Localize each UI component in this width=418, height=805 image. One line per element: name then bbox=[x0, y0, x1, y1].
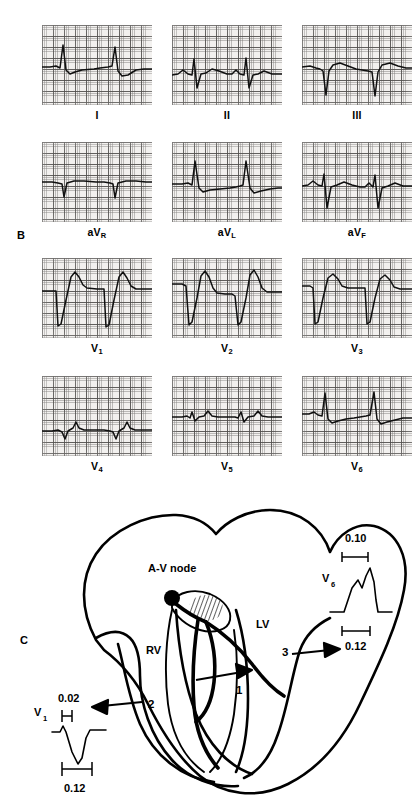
ecg-cell-lead-avf: aVF bbox=[302, 142, 412, 242]
ecg-cell-lead-avl: aVL bbox=[172, 142, 282, 242]
lead-label-v6: V6 bbox=[302, 460, 412, 474]
lead-label-text: I bbox=[95, 109, 98, 121]
left-ventricle-wall bbox=[244, 618, 330, 778]
lead-label-text: aV bbox=[218, 226, 231, 238]
ecg-grid-lead-v2 bbox=[172, 258, 282, 338]
lead-label-v4: V4 bbox=[42, 460, 152, 474]
v6-bottom-caliper bbox=[342, 626, 370, 636]
v1-bottom-interval-label: 0.12 bbox=[64, 782, 85, 794]
activation-arrow-3-label: 3 bbox=[282, 646, 288, 658]
ecg-grid-lead-v5 bbox=[172, 376, 282, 456]
lead-label-subscript: 6 bbox=[358, 465, 362, 474]
v6-top-interval-label: 0.10 bbox=[345, 532, 366, 544]
activation-arrow-2-label: 2 bbox=[148, 698, 154, 710]
lead-label-avf: aVF bbox=[302, 226, 412, 240]
av-node-label: A-V node bbox=[148, 562, 196, 574]
lead-label-subscript: 4 bbox=[98, 465, 102, 474]
lead-label-avr: aVR bbox=[42, 226, 152, 240]
left-bundle-branch-posterior bbox=[196, 622, 215, 722]
lead-label-subscript: F bbox=[361, 231, 366, 240]
v6-waveform bbox=[330, 568, 392, 612]
lead-label-v5: V5 bbox=[172, 460, 282, 474]
ecg-cell-lead-v4: V4 bbox=[42, 376, 152, 476]
ecg-cell-lead-avr: aVR bbox=[42, 142, 152, 242]
right-ventricle-label: RV bbox=[146, 644, 162, 656]
v1-bottom-caliper bbox=[62, 762, 92, 776]
ecg-grid-lead-avl bbox=[172, 142, 282, 222]
activation-arrow-1 bbox=[196, 664, 252, 680]
ecg-grid-lead-iii bbox=[302, 25, 412, 105]
ecg-cell-lead-v2: V2 bbox=[172, 258, 282, 358]
lead-label-subscript: R bbox=[101, 231, 107, 240]
lead-label-text: II bbox=[224, 109, 230, 121]
lead-label-subscript: 2 bbox=[228, 347, 232, 356]
lead-label-ii: II bbox=[172, 109, 282, 121]
lead-label-v1: V1 bbox=[42, 342, 152, 356]
lead-label-v3: V3 bbox=[302, 342, 412, 356]
ecg-grid-lead-v1 bbox=[42, 258, 152, 338]
v1-top-caliper bbox=[62, 710, 72, 722]
ecg-cell-lead-i: I bbox=[42, 25, 152, 125]
v6-lead-label: V bbox=[322, 572, 330, 584]
v6-inset: 0.10 V 6 0.12 bbox=[322, 532, 392, 652]
ecg-cell-lead-v1: V1 bbox=[42, 258, 152, 358]
ecg-grid-lead-i bbox=[42, 25, 152, 105]
lead-label-subscript: 1 bbox=[98, 347, 102, 356]
lead-label-text: aV bbox=[87, 226, 100, 238]
lead-label-subscript: L bbox=[231, 231, 236, 240]
v1-lead-subscript: 1 bbox=[43, 714, 47, 723]
ecg-cell-lead-iii: III bbox=[302, 25, 412, 125]
ecg-cell-lead-v3: V3 bbox=[302, 258, 412, 358]
lead-label-text: III bbox=[352, 109, 362, 121]
ecg-cell-lead-v6: V6 bbox=[302, 376, 412, 476]
lead-label-subscript: 3 bbox=[358, 347, 362, 356]
ecg-grid-lead-v4 bbox=[42, 376, 152, 456]
lead-label-v2: V2 bbox=[172, 342, 282, 356]
v1-lead-label: V bbox=[34, 706, 42, 718]
lead-label-text: aV bbox=[348, 226, 361, 238]
lead-label-subscript: 5 bbox=[228, 465, 232, 474]
ecg-grid-lead-ii bbox=[172, 25, 282, 105]
ecg-grid-lead-v6 bbox=[302, 376, 412, 456]
lead-label-i: I bbox=[42, 109, 152, 121]
lead-label-avl: aVL bbox=[172, 226, 282, 240]
ecg-grid-lead-avr bbox=[42, 142, 152, 222]
v1-top-interval-label: 0.02 bbox=[58, 692, 79, 704]
v1-waveform bbox=[52, 726, 106, 764]
ecg-grid-lead-avf bbox=[302, 142, 412, 222]
ecg-cell-lead-ii: II bbox=[172, 25, 282, 125]
cardiac-activation-diagram: 1 2 3 A-V node RV LV 0.10 V 6 bbox=[0, 490, 418, 805]
purkinje-network-right bbox=[166, 610, 204, 772]
v6-lead-subscript: 6 bbox=[331, 580, 335, 589]
left-ventricle-label: LV bbox=[256, 618, 270, 630]
panel-label-b: B bbox=[17, 229, 25, 241]
lead-label-iii: III bbox=[302, 109, 412, 121]
ecg-grid-lead-v3 bbox=[302, 258, 412, 338]
activation-arrow-1-label: 1 bbox=[236, 684, 243, 696]
ecg-cell-lead-v5: V5 bbox=[172, 376, 282, 476]
v6-bottom-interval-label: 0.12 bbox=[345, 640, 366, 652]
v6-top-caliper bbox=[342, 552, 368, 562]
